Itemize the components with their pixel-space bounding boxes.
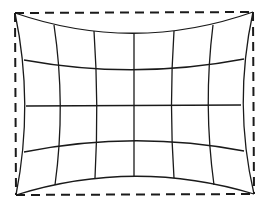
- grid-line-v-5: [172, 31, 175, 178]
- pincushion-diagram: Pincushion distortion grid: [0, 0, 268, 207]
- frame-right: [253, 12, 254, 194]
- frame-left: [15, 13, 16, 195]
- grid-line-v-2: [54, 25, 60, 185]
- grid-line-v-3: [94, 31, 97, 178]
- grid-vertical-lines: [15, 12, 254, 195]
- frame-top: [15, 12, 253, 13]
- grid-line-v-right: [243, 12, 254, 194]
- distortion-figure: [0, 0, 268, 207]
- frame-bottom: [16, 194, 254, 195]
- grid-line-h-bottom: [16, 176, 254, 195]
- grid-line-h-top: [15, 12, 253, 33]
